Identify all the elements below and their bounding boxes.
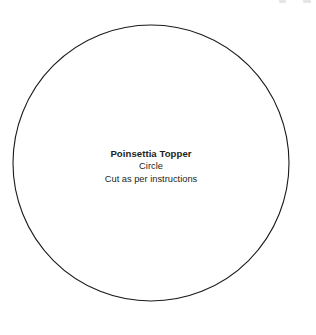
template-label-block: Poinsettia Topper Circle Cut as per inst… <box>0 148 302 186</box>
template-title: Poinsettia Topper <box>0 148 302 160</box>
template-instruction: Cut as per instructions <box>0 173 302 186</box>
template-shape-name: Circle <box>0 160 302 173</box>
cutting-template-page: Poinsettia Topper Circle Cut as per inst… <box>0 0 316 335</box>
